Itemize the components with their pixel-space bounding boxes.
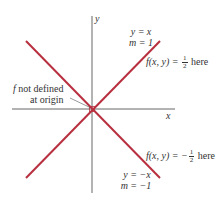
line2-slope-label: m = −1 [118,181,154,191]
upper-value-fraction: 12 [182,55,188,70]
lower-value-prefix: f(x, y) = − [146,150,188,161]
lower-value-annotation: f(x, y) = −12 here [146,149,215,164]
origin-note-line2: at origin [30,95,64,105]
line1-equation-label: y = x [128,27,154,37]
upper-value-prefix: f(x, y) = [146,56,181,67]
upper-value-annotation: f(x, y) = 12 here [146,55,208,70]
x-axis-label: x [166,111,170,121]
line1-slope-label: m = 1 [126,38,156,48]
line2-equation-label: y = −x [120,170,154,180]
origin-note-rest: not defined [16,83,64,94]
upper-value-suffix: here [189,56,209,67]
lower-value-fraction: 12 [189,149,195,164]
y-axis-label: y [95,14,99,24]
origin-note-line1: f not defined [13,84,64,94]
lower-value-suffix: here [195,150,215,161]
